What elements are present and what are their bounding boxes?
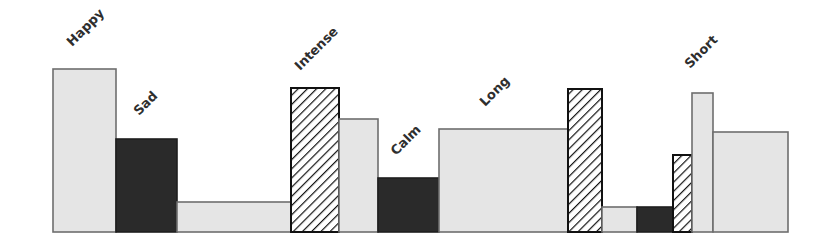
bar-sad xyxy=(116,139,177,232)
bar-happy xyxy=(53,69,116,232)
bar-chart-svg: HappySadIntenseCalmLongShort xyxy=(0,0,828,247)
chart: HappySadIntenseCalmLongShort xyxy=(0,0,828,247)
bar-calm xyxy=(378,178,439,232)
bar-intense xyxy=(291,88,339,232)
bar-dark-9 xyxy=(637,207,673,232)
bar-hatched-7 xyxy=(568,89,602,232)
labels-group: HappySadIntenseCalmLongShort xyxy=(64,5,721,158)
label-happy: Happy xyxy=(64,5,108,49)
label-long: Long xyxy=(477,73,513,109)
bars-group xyxy=(53,69,788,232)
label-sad: Sad xyxy=(131,88,161,118)
label-intense: Intense xyxy=(292,24,342,74)
bar-light-2 xyxy=(177,202,291,232)
bar-light-8 xyxy=(602,207,637,232)
label-calm: Calm xyxy=(388,122,424,158)
bar-short xyxy=(692,93,713,232)
bar-light-4 xyxy=(339,119,378,232)
label-short: Short xyxy=(682,32,721,71)
bar-light-12 xyxy=(713,132,788,232)
bar-long xyxy=(439,129,568,232)
bar-hatched-10 xyxy=(673,155,692,232)
